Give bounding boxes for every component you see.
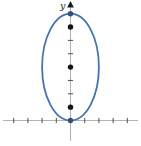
y-axis-label: y — [59, 0, 66, 11]
blue-vertex-point — [68, 11, 73, 16]
black-point — [68, 24, 73, 29]
black-point — [68, 104, 73, 109]
blue-vertex-point — [68, 118, 73, 123]
graph-canvas: y — [0, 0, 141, 146]
y-axis-arrowhead — [67, 1, 74, 8]
graph-figure: y — [0, 0, 141, 146]
black-point — [68, 64, 73, 69]
